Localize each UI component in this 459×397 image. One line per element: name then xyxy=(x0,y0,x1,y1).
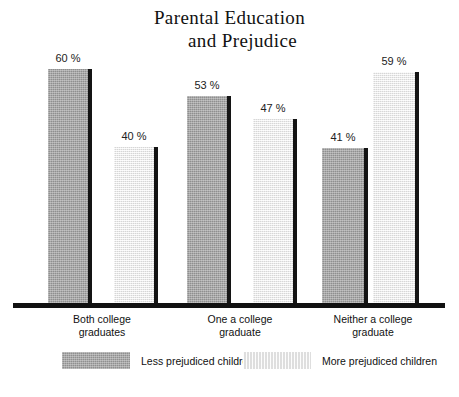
bar-more-prejudiced-both-college xyxy=(114,147,154,303)
bar-less-prejudiced-one-college xyxy=(187,96,227,303)
bar-edge-shadow xyxy=(154,147,158,303)
bar-fill xyxy=(114,147,154,303)
bar-more-prejudiced-one-college xyxy=(253,119,293,303)
bar-edge-shadow xyxy=(293,119,297,303)
bar-fill xyxy=(322,148,364,303)
bar-less-prejudiced-both-college xyxy=(48,69,88,303)
bar-value-label: 47 % xyxy=(245,102,301,114)
bar-less-prejudiced-neither-college xyxy=(322,148,364,303)
category-label-both-college: Both college graduates xyxy=(41,313,163,339)
bar-value-label: 41 % xyxy=(315,131,371,143)
bar-edge-shadow xyxy=(364,148,368,303)
legend-label: More prejudiced children xyxy=(322,355,437,367)
bar-fill xyxy=(253,119,293,303)
bar-edge-shadow xyxy=(415,72,419,303)
plot-area: 60 % 40 % 53 % 47 % 41 % 59 % xyxy=(0,0,459,397)
bar-chart: Parental Education and Prejudice 60 % 40… xyxy=(0,0,459,397)
light-swatch xyxy=(243,352,311,369)
bar-edge-shadow xyxy=(88,69,92,303)
bar-edge-shadow xyxy=(227,96,231,303)
category-label-neither-college: Neither a college graduate xyxy=(309,313,437,339)
bar-more-prejudiced-neither-college xyxy=(373,72,415,303)
bar-value-label: 53 % xyxy=(179,79,235,91)
bar-value-label: 59 % xyxy=(366,55,422,67)
bar-value-label: 40 % xyxy=(106,130,162,142)
category-label-one-college: One a college graduate xyxy=(179,313,301,339)
bar-value-label: 60 % xyxy=(40,52,96,64)
dark-swatch xyxy=(62,352,130,369)
x-axis-baseline xyxy=(13,303,445,308)
legend-label: Less prejudiced children xyxy=(141,355,254,367)
legend-item-more-prejudiced: More prejudiced children xyxy=(243,352,437,369)
bar-fill xyxy=(48,69,88,303)
legend-item-less-prejudiced: Less prejudiced children xyxy=(62,352,254,369)
bar-fill xyxy=(187,96,227,303)
bar-fill xyxy=(373,72,415,303)
